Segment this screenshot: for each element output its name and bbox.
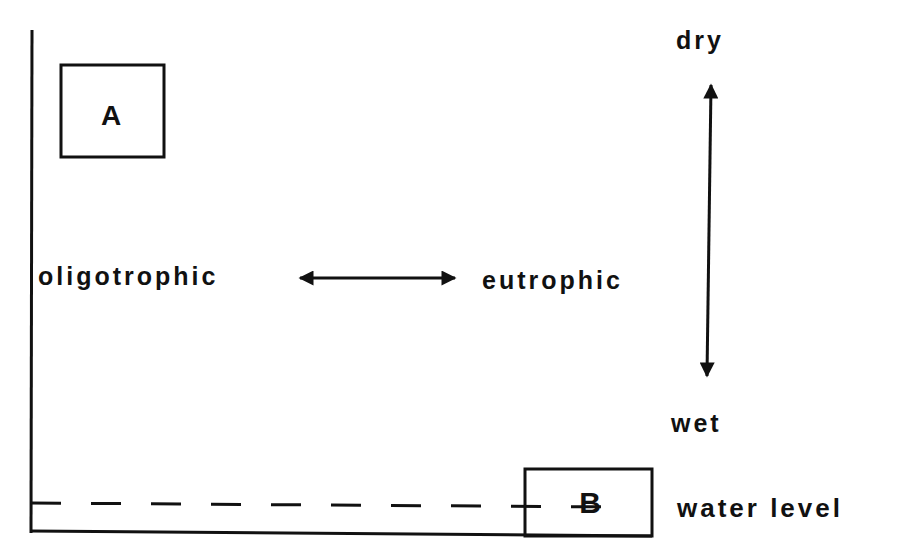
- water-level-label: water level: [676, 493, 843, 523]
- dry-label: dry: [676, 26, 724, 54]
- water-level-line: [31, 503, 620, 507]
- oligotrophic-label: oligotrophic: [38, 262, 218, 290]
- box-a-label: A: [101, 100, 121, 131]
- moisture-arrow: [707, 85, 711, 376]
- box-b-label: B: [579, 486, 601, 519]
- left-axis-line: [31, 30, 32, 533]
- wet-label: wet: [670, 409, 722, 437]
- diagram-canvas: A B oligotrophic eutrophic dry wet water…: [0, 0, 922, 557]
- eutrophic-label: eutrophic: [482, 266, 623, 294]
